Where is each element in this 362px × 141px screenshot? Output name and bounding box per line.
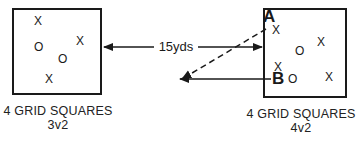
right-defender-2: O <box>288 72 297 86</box>
right-grid-label: 4 GRID SQUARES <box>240 107 362 121</box>
right-grid-caption: 4 GRID SQUARES 4v2 <box>240 107 362 135</box>
left-grid-format: 3v2 <box>0 118 116 132</box>
left-attacker-2: X <box>76 34 84 48</box>
right-defender-1: O <box>295 44 304 58</box>
left-attacker-3: X <box>45 72 53 86</box>
left-defender-1: O <box>34 40 43 54</box>
right-attacker-1: X <box>272 23 280 37</box>
left-grid-box <box>13 9 101 94</box>
right-attacker-4: X <box>325 70 333 84</box>
left-attacker-1: X <box>34 14 42 28</box>
right-attacker-2: X <box>317 35 325 49</box>
left-defender-2: O <box>58 52 67 66</box>
right-marker-b: B <box>272 70 284 88</box>
left-grid-label: 4 GRID SQUARES <box>0 104 116 118</box>
distance-label: 15yds <box>155 39 197 55</box>
left-grid-caption: 4 GRID SQUARES 3v2 <box>0 104 116 132</box>
right-grid-format: 4v2 <box>240 121 362 135</box>
